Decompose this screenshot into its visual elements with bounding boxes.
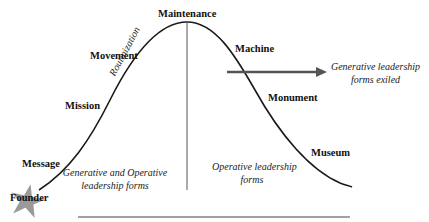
stage-mission: Mission <box>65 100 100 111</box>
stage-message: Message <box>22 158 60 169</box>
stage-maintenance: Maintenance <box>158 8 216 19</box>
stage-founder: Founder <box>10 192 49 203</box>
left-region-label: Generative and Operative leadership form… <box>60 166 170 192</box>
stage-monument: Monument <box>268 92 318 103</box>
stage-machine: Machine <box>235 43 274 54</box>
arrow-head-icon <box>316 67 327 77</box>
arrow-label: Generative leadership forms exiled <box>328 60 423 86</box>
right-region-label: Operative leadership forms <box>212 160 292 186</box>
stage-museum: Museum <box>311 147 350 158</box>
